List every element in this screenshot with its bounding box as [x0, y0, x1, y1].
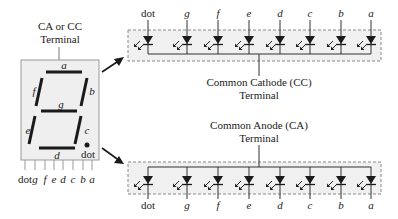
common-cathode-circuit	[128, 20, 381, 76]
cc-terminal-label-line1: Common Cathode (CC)	[199, 77, 319, 88]
pin-label-a: a	[88, 174, 96, 185]
segment-label-a: a	[59, 60, 69, 71]
pin-label-g: g	[31, 174, 39, 185]
cc-label-a: a	[365, 8, 377, 19]
pin-label-e: e	[50, 174, 58, 185]
segment-label-d: d	[52, 150, 62, 161]
terminal-label-line2: Terminal	[20, 34, 100, 45]
cc-label-c: c	[304, 8, 316, 19]
cc-label-d: d	[274, 8, 286, 19]
pin-label-d: d	[59, 174, 67, 185]
terminal-label-line1: CA or CC	[20, 21, 100, 32]
arrow-to-cc	[102, 57, 124, 72]
ca-label-g: g	[181, 200, 193, 211]
cc-label-dot: dot	[136, 8, 160, 19]
ca-label-d: d	[274, 200, 286, 211]
pin-label-f: f	[41, 174, 49, 185]
segment-label-dot: dot	[78, 149, 98, 160]
ca-label-f: f	[212, 200, 224, 211]
segment-label-c: c	[82, 125, 92, 136]
segment-label-e: e	[23, 125, 33, 136]
cc-label-e: e	[243, 8, 255, 19]
segment-dot	[85, 143, 90, 148]
ca-label-e: e	[243, 200, 255, 211]
cc-terminal-label-line2: Terminal	[199, 90, 319, 101]
segment-label-g: g	[56, 99, 66, 110]
pin-label-b: b	[79, 174, 87, 185]
ca-label-dot: dot	[136, 200, 160, 211]
ca-label-a: a	[365, 200, 377, 211]
cc-label-b: b	[335, 8, 347, 19]
ca-label-b: b	[335, 200, 347, 211]
pin-label-c: c	[69, 174, 77, 185]
segment-label-f: f	[29, 86, 39, 97]
cc-label-f: f	[212, 8, 224, 19]
ca-terminal-label-line1: Common Anode (CA)	[199, 120, 319, 131]
cc-label-g: g	[181, 8, 193, 19]
segment-label-b: b	[87, 86, 97, 97]
arrow-to-ca	[102, 148, 124, 164]
ca-label-c: c	[304, 200, 316, 211]
common-anode-circuit	[128, 145, 381, 199]
ca-terminal-label-line2: Terminal	[199, 133, 319, 144]
